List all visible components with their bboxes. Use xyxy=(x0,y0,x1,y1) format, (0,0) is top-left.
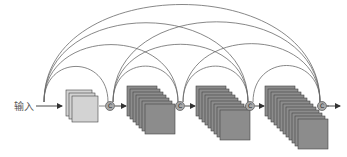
concat-node-c3: C xyxy=(246,102,255,111)
concat-symbol: C xyxy=(320,102,324,109)
feature-map xyxy=(298,119,328,149)
concat-node-c2: C xyxy=(176,102,185,111)
stack-2 xyxy=(127,86,175,134)
feature-map xyxy=(220,110,250,140)
stack-1 xyxy=(66,90,98,122)
feature-map xyxy=(145,104,175,134)
feature-map-stacks xyxy=(66,86,328,149)
stack-4 xyxy=(265,86,328,149)
concat-node-c1: C xyxy=(106,102,115,111)
stack-3 xyxy=(196,86,250,140)
diagram-canvas: CCCC xyxy=(0,0,347,157)
concat-node-c4: C xyxy=(318,102,327,111)
concat-symbol: C xyxy=(178,102,182,109)
feature-map xyxy=(72,96,98,122)
concat-symbol: C xyxy=(248,102,252,109)
densenet-diagram: CCCC 输入 xyxy=(0,0,347,157)
concat-symbol: C xyxy=(108,102,112,109)
input-label: 输入 xyxy=(14,98,34,113)
